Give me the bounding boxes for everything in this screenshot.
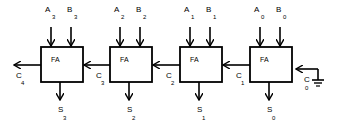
sum-subscript: 2 [132,115,136,121]
input-b-subscript: 0 [283,14,287,20]
carry-out-subscript: 3 [101,80,105,86]
input-b-label: B [136,5,141,14]
sum-subscript: 0 [272,115,276,121]
input-a-subscript: 2 [121,14,125,20]
full-adder-label: FA [190,56,199,63]
input-a-label: A [45,5,51,14]
input-b-subscript: 2 [143,14,147,20]
sum-label: S [197,105,202,114]
input-b-label: B [276,5,281,14]
full-adder-box [41,47,83,82]
sum-label: S [58,105,63,114]
input-b-subscript: 1 [213,14,217,20]
sum-subscript: 3 [63,115,67,121]
input-a-label: A [184,5,190,14]
full-adder-1: FAA1B1S1C2 [153,5,222,121]
input-b-label: B [67,5,72,14]
full-adder-label: FA [260,56,269,63]
carry-out-label: C [166,71,172,80]
sum-label: S [127,105,132,114]
carry-out-label: C [96,71,102,80]
full-adder-box [250,47,292,82]
input-a-label: A [114,5,120,14]
full-adder-2: FAA2B2S2C3 [84,5,152,121]
sum-label: S [267,105,272,114]
ground-icon [312,80,324,86]
full-adder-box [110,47,152,82]
carry-out-subscript: 4 [21,80,25,86]
carry-out-subscript: 1 [241,80,245,86]
sum-subscript: 1 [202,115,206,121]
input-a-subscript: 0 [261,14,265,20]
full-adder-box [180,47,222,82]
ripple-carry-adder-diagram: FAA3B3S3C4FAA2B2S2C3FAA1B1S1C2FAA0B0S0C1… [0,0,337,132]
full-adder-label: FA [51,56,60,63]
carry-out-label: C [236,71,242,80]
input-a-subscript: 3 [52,14,56,20]
input-a-label: A [254,5,260,14]
carry-in-label: C [304,75,310,84]
full-adder-3: FAA3B3S3C4 [14,5,83,121]
input-b-subscript: 3 [74,14,78,20]
carry-in-subscript: 0 [305,85,309,91]
full-adder-0: FAA0B0S0C1 [223,5,292,121]
full-adder-label: FA [120,56,129,63]
input-a-subscript: 1 [191,14,195,20]
carry-out-label: C [16,71,22,80]
input-b-label: B [206,5,211,14]
carry-in-group: C 0 [296,69,324,91]
carry-out-subscript: 2 [171,80,175,86]
